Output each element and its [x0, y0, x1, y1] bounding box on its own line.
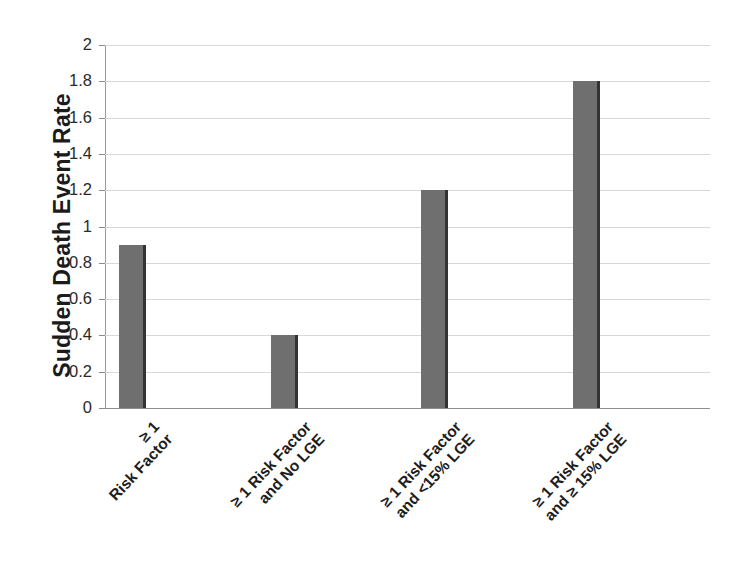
bar[interactable] — [421, 190, 448, 408]
y-tick-label: 1.4 — [30, 144, 92, 163]
bar[interactable] — [119, 245, 146, 408]
gridline — [105, 408, 710, 409]
y-tick-label: 2 — [30, 35, 92, 54]
gridline — [105, 190, 710, 191]
x-axis-label: ≥ 1Risk Factor — [0, 418, 177, 564]
y-tick-mark — [99, 372, 105, 373]
y-tick-label: 0.8 — [30, 253, 92, 272]
y-tick-mark — [99, 263, 105, 264]
y-tick-mark — [99, 118, 105, 119]
bar[interactable] — [271, 335, 298, 408]
gridline — [105, 45, 710, 46]
y-tick-mark — [99, 227, 105, 228]
plot-area — [105, 45, 710, 408]
gridline — [105, 154, 710, 155]
gridline — [105, 335, 710, 336]
bar-chart: Sudden Death Event Rate 00.20.40.60.811.… — [0, 0, 736, 564]
y-tick-label: 0.2 — [30, 362, 92, 381]
y-tick-mark — [99, 190, 105, 191]
y-tick-label: 1.2 — [30, 180, 92, 199]
y-tick-label: 1.8 — [30, 71, 92, 90]
gridline — [105, 227, 710, 228]
y-tick-mark — [99, 81, 105, 82]
gridline — [105, 299, 710, 300]
y-tick-mark — [99, 299, 105, 300]
y-tick-mark — [99, 154, 105, 155]
y-tick-label: 0.6 — [30, 289, 92, 308]
gridline — [105, 372, 710, 373]
y-tick-mark — [99, 335, 105, 336]
y-tick-label: 0 — [30, 398, 92, 417]
gridline — [105, 81, 710, 82]
gridline — [105, 263, 710, 264]
y-tick-label: 1 — [30, 217, 92, 236]
y-tick-label: 1.6 — [30, 108, 92, 127]
gridline — [105, 118, 710, 119]
y-tick-mark — [99, 45, 105, 46]
y-tick-mark — [99, 408, 105, 409]
y-tick-label: 0.4 — [30, 325, 92, 344]
bar[interactable] — [573, 81, 600, 408]
